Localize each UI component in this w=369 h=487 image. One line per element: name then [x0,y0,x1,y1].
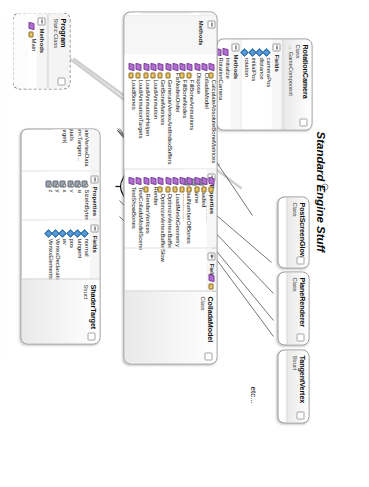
node-header: PostScreenGlow Class [286,197,308,267]
node-post-screen-glow[interactable]: PostScreenGlow Class [277,196,309,268]
section-methods: Methods CalculateAbsoluteBoneMatrices Co… [124,15,216,168]
expander-icon[interactable] [90,175,98,183]
section-header-methods[interactable]: Methods [124,16,216,54]
node-stereotype: Class [293,44,300,124]
expander-icon[interactable] [231,43,239,51]
section-header-methods[interactable]: Methods [36,13,46,88]
section-properties: Properties SizeInBytes u v x y z [21,170,99,219]
method-icon [144,177,150,183]
list-item[interactable]: GenerateVertexData [82,128,89,170]
methods-list: Initialize RotationCamera Update [216,39,230,129]
node-stereotype: Class [290,202,297,262]
list-item[interactable]: ICollection<Tangen... [74,128,81,170]
list-item[interactable]: VertexElements [45,220,52,278]
pin-icon[interactable] [204,352,212,360]
list-item[interactable]: TooLong [53,128,60,170]
expander-icon[interactable] [272,43,280,51]
node-plane-renderer[interactable]: PlaneRenderer Class [277,271,309,345]
property-icon [46,180,52,186]
list-item[interactable]: cameraPos [264,39,271,129]
list-item[interactable]: uv [60,220,67,278]
section-header-methods[interactable]: Methods [89,128,99,170]
expander-icon[interactable] [37,17,45,25]
list-item[interactable]: FixNodesOrder [172,54,179,168]
pin-icon[interactable] [57,77,65,85]
node-program[interactable]: Program Static Class Methods Main [12,12,70,89]
node-title: RotationCamera [300,44,308,124]
field-icon [60,229,66,235]
list-item[interactable]: tangent [74,220,81,278]
node-stereotype: Class [198,296,205,358]
expander-icon[interactable] [207,20,215,28]
list-item[interactable]: GetBoneMatrices [158,54,165,168]
list-item[interactable]: LoadBones [128,54,135,168]
lock-icon [180,186,186,190]
list-item[interactable]: SizeInBytes [82,171,89,219]
lock-icon [209,283,215,287]
list-item[interactable]: initialPos [249,39,256,129]
field-icon [242,48,248,54]
list-item[interactable]: ShaderTarget( [60,128,67,170]
method-icon [151,63,157,69]
pin-icon[interactable] [296,333,304,341]
list-item[interactable]: VertexDeclaration [53,220,60,278]
methods-list: CalculateAbsoluteBoneMatrices ColladaMod… [123,54,216,168]
list-item[interactable]: ColladaModel [201,54,208,168]
list-item[interactable]: x [60,171,67,219]
list-item[interactable]: LoadAnimation [150,54,157,168]
method-icon [195,177,201,183]
section-header-nested-types[interactable]: Nested Types [198,11,216,15]
list-item[interactable]: NearlyEquals [67,128,74,170]
method-icon [223,48,229,54]
list-item[interactable]: v [67,171,74,219]
list-item[interactable]: y [53,171,60,219]
list-item[interactable]: u [74,171,81,219]
property-icon [60,180,66,186]
method-icon [202,177,208,183]
pin-icon[interactable] [299,118,307,126]
list-item[interactable]: normal [82,220,89,278]
list-item[interactable]: LoadAnimationHelper [143,54,150,168]
list-item[interactable]: Initialize [223,39,230,129]
list-item[interactable]: FillBoneNodes [180,54,187,168]
class-diagram-canvas: TangentVertex Struct PlaneRenderer Class… [0,0,369,487]
list-item[interactable]: distance [256,39,263,129]
node-shader-target[interactable]: ShaderTarget Struct Fields normal tangen… [20,128,100,344]
field-icon [257,48,263,54]
lock-icon [209,186,215,190]
section-header-fields[interactable]: Fields [271,39,281,129]
pin-icon[interactable] [296,411,304,419]
methods-list: GenerateVertexData ICollection<Tangen...… [52,128,89,170]
node-tangent-vertex[interactable]: TangentVertex Struct [277,349,309,423]
section-header-methods[interactable]: Methods [230,39,240,129]
section-methods: Methods Initialize RotationCamera Update [216,39,241,129]
lock-icon [166,72,172,76]
list-item[interactable]: CalculateAbsoluteBoneMatrices [209,54,216,168]
expander-icon[interactable] [90,224,98,232]
list-item[interactable]: LoadAnimationTargets [136,54,143,168]
node-collada-model[interactable]: ColladaModel Class Fields Properties Loa… [123,11,217,364]
lock-icon [144,186,150,190]
list-item[interactable]: Dispose [194,54,201,168]
method-icon [202,63,208,69]
pin-icon[interactable] [296,256,304,264]
pin-icon[interactable] [87,332,95,340]
list-item[interactable]: Main [29,13,36,88]
section-header-properties[interactable]: Properties [89,171,99,219]
expander-icon[interactable] [207,252,215,260]
method-icon [173,63,179,69]
lock-icon [195,186,201,190]
property-icon [75,180,81,186]
list-item[interactable]: GenerateVertexAndIndexBuffers [165,54,172,168]
node-rotation-camera[interactable]: RotationCamera Class → GameComponent Fie… [216,38,312,130]
node-stereotype: Static Class [51,18,58,83]
method-icon [209,177,215,183]
list-item[interactable]: z [45,171,52,219]
node-title: PostScreenGlow [297,202,305,262]
list-item[interactable]: FillBoneAnimations [187,54,194,168]
list-item[interactable]: rotation [242,39,249,129]
method-icon [195,63,201,69]
node-header: Program Static Class [47,13,69,88]
section-header-fields[interactable]: Fields [89,220,99,278]
list-item[interactable]: pos [67,220,74,278]
